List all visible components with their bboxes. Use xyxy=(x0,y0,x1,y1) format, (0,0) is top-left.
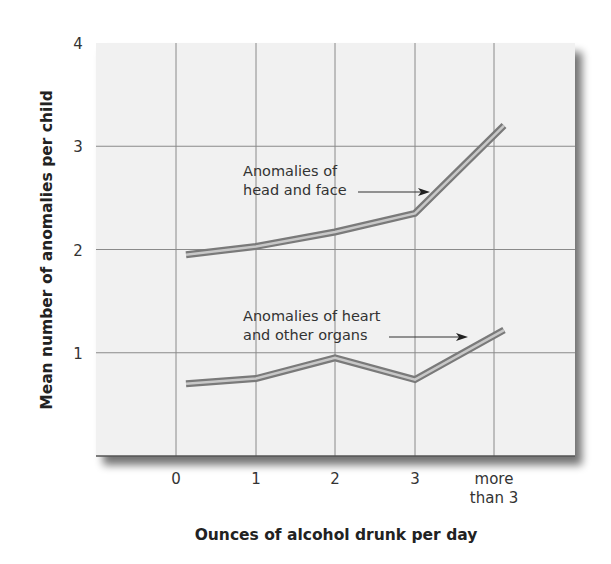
x-tick-label: more xyxy=(475,470,514,488)
x-tick-label: than 3 xyxy=(470,489,518,507)
y-tick-label: 1 xyxy=(73,345,83,363)
x-axis-title: Ounces of alcohol drunk per day xyxy=(195,526,478,544)
y-axis-title: Mean number of anomalies per child xyxy=(38,90,56,410)
series-annotation-label: head and face xyxy=(243,182,347,198)
y-axis-ticks: 1234 xyxy=(73,35,83,363)
series-annotation-label: Anomalies of heart xyxy=(243,308,381,324)
series-annotation-label: and other organs xyxy=(243,327,368,343)
y-tick-label: 4 xyxy=(73,35,83,53)
series-annotation-label: Anomalies of xyxy=(243,163,338,179)
x-tick-label: 3 xyxy=(410,470,420,488)
chart: 1234 0123morethan 3 Anomalies ofhead and… xyxy=(0,0,611,564)
x-tick-label: 0 xyxy=(171,470,181,488)
x-tick-label: 2 xyxy=(330,470,340,488)
y-tick-label: 3 xyxy=(73,138,83,156)
y-tick-label: 2 xyxy=(73,242,83,260)
x-tick-label: 1 xyxy=(251,470,261,488)
x-axis-ticks: 0123morethan 3 xyxy=(171,470,518,507)
